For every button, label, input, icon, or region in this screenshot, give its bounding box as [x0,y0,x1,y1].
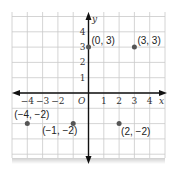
origin-label: O [78,96,86,106]
point-label: (3, 3) [137,35,160,46]
x-axis-label: x [159,96,164,106]
x-tick-label: 4 [147,96,153,106]
y-axis-label: y [91,14,98,24]
point-label: (−4, −2) [14,109,49,120]
x-tick-label: −4 [21,96,35,106]
point-marker [86,45,91,50]
point-marker [132,45,137,50]
y-tick-label: 3 [80,42,86,52]
y-tick-label: 2 [80,57,86,67]
x-tick-label: −2 [51,96,64,106]
point-label: (0, 3) [92,35,115,46]
x-tick-label: −3 [36,96,50,106]
point-label: (2, −2) [121,126,150,137]
x-tick-label: 3 [132,96,138,106]
x-tick-label: 2 [116,96,122,106]
point-marker [25,121,30,126]
points: (0, 3)(3, 3)(−4, −2)(−1, −2)(2, −2) [14,35,160,137]
tick-labels: −4−3−212341234 [21,27,153,106]
x-tick-label: 1 [101,96,107,106]
y-tick-label: 4 [80,27,86,37]
coordinate-plane: −4−3−212341234 y x O (0, 3)(3, 3)(−4, −2… [0,0,173,171]
point-label: (−1, −2) [42,125,77,136]
y-tick-label: 1 [80,73,86,83]
